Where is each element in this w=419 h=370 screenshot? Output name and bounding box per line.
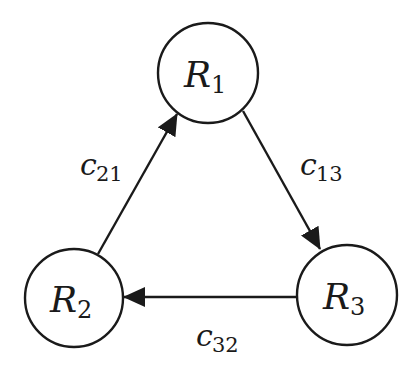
- edge-label-c13-subscript: 13: [316, 162, 343, 186]
- node-r1-symbol: R: [183, 54, 211, 95]
- edge-c21: c 21: [80, 114, 177, 254]
- node-r2-subscript: 2: [77, 296, 92, 324]
- reaction-cycle-diagram: c 21 c 13 c 32 R 1 R 2 R 3: [0, 0, 419, 370]
- node-r1: R 1: [158, 23, 258, 123]
- edge-label-c13-symbol: c: [300, 147, 317, 182]
- node-r3-subscript: 3: [350, 293, 365, 321]
- node-r2-symbol: R: [49, 279, 77, 320]
- node-r3: R 3: [297, 245, 397, 345]
- node-r2: R 2: [25, 249, 123, 347]
- edge-label-c21-symbol: c: [80, 147, 97, 182]
- edge-label-c32-subscript: 32: [212, 333, 239, 357]
- edge-c32: c 32: [124, 297, 297, 357]
- node-r3-symbol: R: [322, 276, 350, 317]
- edge-label-c32-symbol: c: [196, 318, 213, 353]
- node-r1-subscript: 1: [211, 71, 226, 99]
- edge-c13: c 13: [243, 111, 343, 249]
- edge-label-c21-subscript: 21: [96, 162, 123, 186]
